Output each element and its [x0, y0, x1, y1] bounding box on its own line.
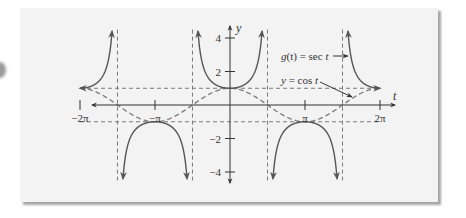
x-tick-label-neg2pi: −2π [71, 112, 89, 124]
y-axis-label: y [235, 21, 242, 35]
cos-annotation-label: y = cos t [280, 74, 319, 86]
x-axis-label: t [393, 89, 397, 103]
y-tick-label-neg2: −2 [209, 133, 221, 145]
x-tick-label-2pi: 2π [374, 112, 386, 124]
x-tick-label-pi: π [302, 112, 308, 124]
sec-annotation-label: g(t) = sec t [281, 50, 329, 63]
y-tick-label-4: 4 [216, 32, 222, 44]
y-tick-label-neg4: −4 [209, 166, 221, 178]
chart-svg: −2π −π π 2π 4 2 −2 −4 y t g(t) = sec t y… [0, 0, 466, 218]
cos-annotation-arrow [320, 82, 352, 97]
x-tick-label-negpi: −π [149, 112, 161, 124]
y-tick-label-2: 2 [216, 66, 222, 78]
